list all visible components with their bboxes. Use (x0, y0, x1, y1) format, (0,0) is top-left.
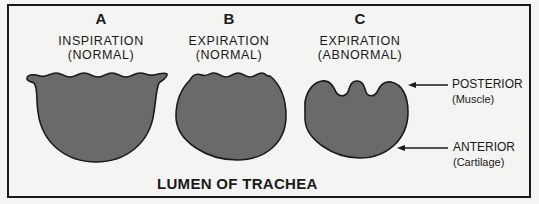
anterior-label-main: ANTERIOR (453, 140, 515, 155)
lumen-shape-b (176, 73, 286, 160)
diagram-title: LUMEN OF TRACHEA (157, 175, 318, 192)
anterior-label-sub: (Cartilage) (453, 155, 515, 170)
posterior-label-main: POSTERIOR (452, 77, 523, 92)
posterior-arrow (408, 82, 448, 88)
lumen-shape-a (27, 73, 167, 162)
anterior-arrow (397, 145, 448, 151)
posterior-label-sub: (Muscle) (452, 92, 523, 107)
posterior-label: POSTERIOR (Muscle) (452, 77, 523, 107)
lumen-shape-c (305, 81, 408, 158)
anterior-label: ANTERIOR (Cartilage) (453, 140, 515, 170)
